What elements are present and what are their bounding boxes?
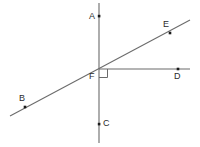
point-label-f: F [89,72,95,81]
point-label-d: D [174,72,181,81]
point-a-dot [98,15,101,18]
point-b-dot [24,106,27,109]
point-label-c: C [103,119,110,128]
geometry-diagram: A B C D E F [0,0,200,147]
right-angle-marker-icon [99,69,108,78]
point-d-dot [177,68,180,71]
point-label-b: B [19,94,25,103]
point-label-a: A [89,12,95,21]
geometry-canvas [0,0,200,147]
point-e-dot [169,32,172,35]
point-label-e: E [163,20,169,29]
points-group [24,15,180,126]
point-c-dot [98,123,101,126]
diagonal-line-BE [10,20,190,116]
